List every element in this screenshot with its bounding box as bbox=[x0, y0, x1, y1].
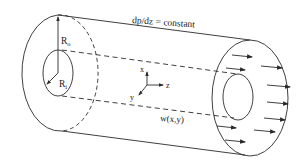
pressure-gradient-label: dp/dz = constant bbox=[132, 15, 196, 29]
axis-x-label: x bbox=[140, 65, 144, 74]
coordinate-axes bbox=[139, 72, 163, 95]
right-inner-ellipse bbox=[223, 74, 253, 120]
annular-pipe-flow-diagram: dp/dz = constant Ro Ri x z y w(x,y) bbox=[0, 0, 303, 164]
left-outer-ellipse-back bbox=[58, 15, 98, 131]
inner-radius-arrow bbox=[47, 73, 58, 84]
inner-cylinder-bottom-edge bbox=[62, 96, 234, 118]
inner-cylinder-top-edge bbox=[62, 50, 237, 74]
left-outer-ellipse-front bbox=[22, 15, 62, 131]
cylinder-bottom-edge bbox=[62, 131, 245, 155]
outer-radius-label: Ro bbox=[61, 36, 71, 47]
axis-y-label: y bbox=[130, 93, 134, 102]
inner-radius-label: Ri bbox=[59, 79, 67, 90]
velocity-arrows bbox=[217, 55, 290, 142]
velocity-label: w(x,y) bbox=[160, 113, 184, 125]
axis-z-label: z bbox=[166, 81, 170, 90]
